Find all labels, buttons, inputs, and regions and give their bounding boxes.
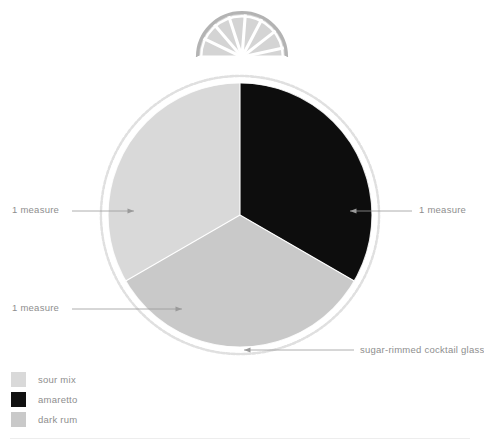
callout-label-sour-mix: 1 measure [12,205,59,215]
legend-item-amaretto[interactable]: amaretto [11,390,78,409]
legend-swatch-amaretto [11,392,26,407]
footer-divider [10,438,470,439]
legend-item-sour-mix[interactable]: sour mix [11,370,78,389]
callout-label-amaretto: 1 measure [419,205,466,215]
legend-item-dark-rum[interactable]: dark rum [11,410,78,429]
legend-swatch-sour-mix [11,372,26,387]
legend-label-sour-mix: sour mix [38,375,76,385]
legend-swatch-dark-rum [11,412,26,427]
pie-chart [108,83,372,347]
callout-label-dark-rum: 1 measure [12,303,59,313]
legend: sour mix amaretto dark rum [11,370,78,430]
legend-label-amaretto: amaretto [38,395,78,405]
lemon-wheel-half-icon [198,13,287,58]
callout-label-glass: sugar-rimmed cocktail glass [360,345,484,355]
legend-label-dark-rum: dark rum [38,415,77,425]
